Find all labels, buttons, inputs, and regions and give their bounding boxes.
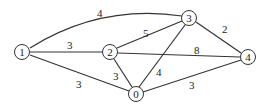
node-4: 4: [241, 50, 256, 65]
weight-0-4: 3: [189, 79, 195, 91]
node-0-label: 0: [133, 88, 139, 100]
weight-2-4: 8: [194, 44, 200, 56]
node-4-label: 4: [245, 51, 251, 63]
node-2-label: 2: [107, 46, 113, 58]
weight-1-3: 4: [97, 7, 103, 19]
weight-2-3: 5: [143, 27, 149, 39]
node-1-label: 1: [19, 46, 25, 58]
edge-2-3: [117, 21, 182, 48]
edge-weights: 4 3 3 5 8 3 4 2 3: [67, 7, 228, 91]
node-3-label: 3: [186, 12, 192, 24]
node-2: 2: [103, 45, 118, 60]
weight-2-0: 3: [113, 70, 119, 82]
node-1: 1: [15, 45, 30, 60]
weight-3-0: 4: [156, 66, 162, 78]
weight-1-2: 3: [67, 39, 73, 51]
weight-1-0: 3: [76, 78, 82, 90]
weighted-graph: 4 3 3 5 8 3 4 2 3 0 1 2 3 4: [0, 0, 271, 105]
edges: [30, 13, 241, 92]
edge-3-4: [196, 22, 241, 53]
node-0: 0: [129, 87, 144, 102]
weight-3-4: 2: [222, 23, 228, 35]
edge-2-4: [118, 53, 240, 57]
node-3: 3: [182, 11, 197, 26]
